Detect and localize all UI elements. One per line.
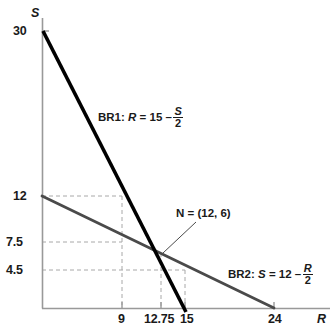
br1-frac-numerator: S (173, 106, 182, 118)
br2-rhs: 12 (279, 268, 292, 280)
y-axis-label: S (31, 7, 39, 20)
y-tick-12: 12 (13, 190, 27, 203)
x-axis-label: R (317, 313, 326, 326)
x-tick-12-75: 12.75 (144, 313, 174, 326)
br1-frac-denominator: 2 (173, 117, 182, 130)
br1-fraction: S 2 (173, 106, 182, 130)
br2-lhs: S (258, 268, 266, 280)
y-tick-4-5: 4.5 (6, 264, 23, 277)
br2-line (42, 196, 274, 308)
x-tick-15: 15 (180, 313, 194, 326)
x-tick-9: 9 (118, 313, 125, 326)
br1-prefix: BR1: (98, 111, 125, 123)
br2-prefix: BR2: (228, 268, 255, 280)
br2-fraction: R 2 (303, 263, 313, 287)
best-response-figure: S R 30 12 7.5 4.5 9 12.75 15 24 BR1: R =… (0, 0, 336, 331)
br2-minus: – (295, 268, 301, 280)
br2-eq: = (269, 268, 276, 280)
y-tick-7-5: 7.5 (6, 236, 23, 249)
br1-equation-label: BR1: R = 15 – S 2 (98, 106, 183, 130)
br2-frac-denominator: 2 (303, 274, 313, 287)
y-tick-30: 30 (13, 25, 27, 38)
br2-equation-label: BR2: S = 12 – R 2 (228, 263, 313, 287)
nash-equilibrium-label: N = (12, 6) (176, 208, 231, 220)
br2-frac-numerator: R (303, 263, 313, 275)
br1-rhs: 15 (149, 111, 162, 123)
nash-leader-line (163, 222, 196, 253)
x-tick-24: 24 (268, 313, 282, 326)
br1-minus: – (165, 111, 171, 123)
